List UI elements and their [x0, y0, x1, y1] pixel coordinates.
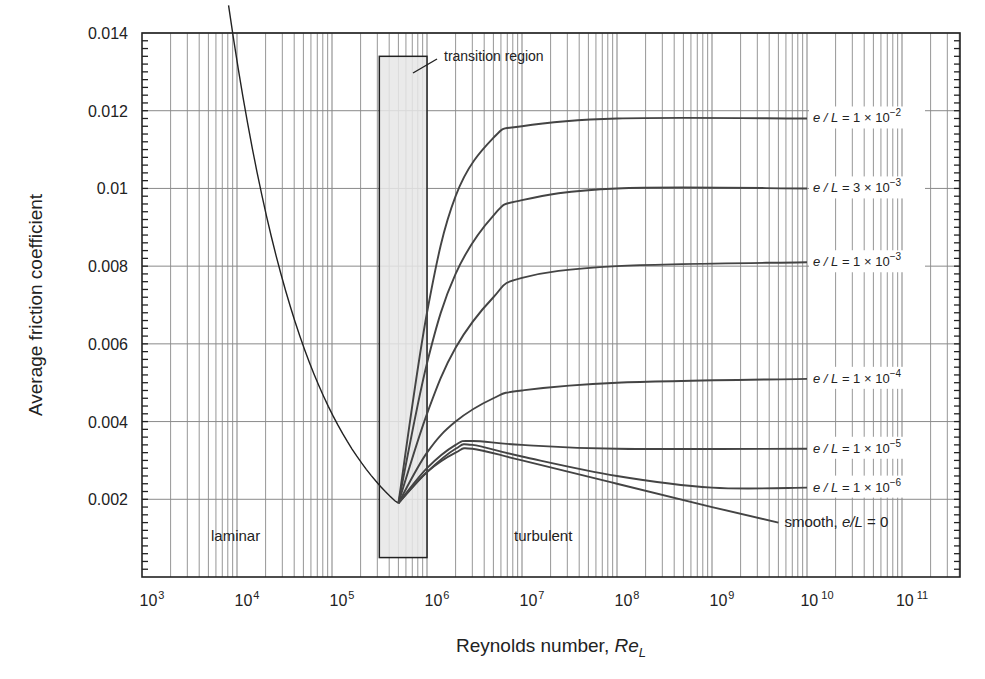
x-tick-label: 104: [235, 589, 260, 609]
curve-label: e / L = 1 × 10−4: [813, 368, 901, 386]
x-tick-label: 103: [140, 589, 165, 609]
y-tick-label: 0.008: [88, 258, 128, 275]
x-tick-label: 107: [520, 589, 545, 609]
chart-container: e / L = 1 × 10−2e / L = 3 × 10−3e / L = …: [0, 0, 985, 679]
laminar-label: laminar: [211, 527, 260, 544]
x-axis-title-main: Reynolds number,: [456, 635, 614, 656]
y-tick-label: 0.012: [88, 103, 128, 120]
curve-label: e / L = 1 × 10−2: [813, 107, 901, 125]
x-axis-title-subscript: L: [639, 645, 646, 660]
x-axis-ticks: 10310410510610710810910101011: [140, 589, 929, 609]
curve-label: e / L = 3 × 10−3: [813, 177, 901, 195]
x-axis-title: Reynolds number, ReL: [456, 635, 646, 660]
curve-label: e / L = 1 × 10−3: [813, 251, 901, 269]
y-tick-label: 0.01: [97, 180, 128, 197]
x-tick-label: 109: [710, 589, 735, 609]
x-tick-label: 1011: [896, 589, 928, 609]
x-tick-label: 108: [615, 589, 640, 609]
laminar-curve: [229, 5, 399, 503]
y-tick-label: 0.014: [88, 25, 128, 42]
x-tick-label: 106: [425, 589, 450, 609]
y-tick-label: 0.004: [88, 414, 128, 431]
curve-label: e / L = 1 × 10−5: [813, 438, 901, 456]
y-axis-title: Average friction coefficient: [25, 193, 46, 416]
y-tick-label: 0.002: [88, 491, 128, 508]
curve-labels: e / L = 1 × 10−2e / L = 3 × 10−3e / L = …: [784, 106, 925, 529]
curve-label: e / L = 1 × 10−6: [813, 477, 901, 495]
x-tick-label: 105: [330, 589, 355, 609]
turbulent-label: turbulent: [514, 527, 573, 544]
friction-coefficient-chart: e / L = 1 × 10−2e / L = 3 × 10−3e / L = …: [0, 0, 985, 679]
curve-label: smooth, e/L = 0: [784, 513, 888, 530]
x-tick-label: 1010: [800, 589, 833, 609]
transition-region-label: transition region: [444, 48, 544, 64]
y-tick-label: 0.006: [88, 336, 128, 353]
x-axis-title-italic: Re: [614, 635, 638, 656]
